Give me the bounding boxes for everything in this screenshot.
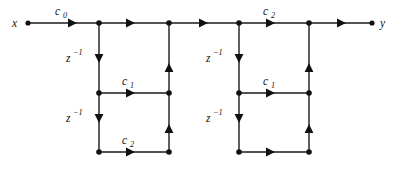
delay-label-s2-upper: z −1	[205, 48, 223, 64]
delay-label-s2-lower: z −1	[205, 108, 223, 124]
delay-s2-lower-superscript: −1	[213, 108, 223, 117]
delay-s1-upper-superscript: −1	[73, 48, 83, 57]
section1-left-delay-chain	[95, 23, 104, 152]
delay-s1-lower-base: z	[65, 112, 71, 124]
arrow-s1-top-forward	[126, 19, 135, 28]
top-signal-path	[28, 19, 372, 28]
output-terminal-label: y	[379, 17, 386, 30]
node-s1-mid-right	[166, 90, 172, 96]
delay-s2-upper-superscript: −1	[213, 48, 223, 57]
node-s2-mid-left	[236, 90, 242, 96]
arrow-s1-feedback-upper-up	[165, 63, 174, 72]
gain-label-s2-c2-top: c 2	[263, 5, 275, 20]
gain-label-c0: c 0	[55, 5, 67, 20]
gain-s1-c2-subscript: 2	[130, 140, 134, 149]
node-s1-bot-left	[96, 149, 102, 155]
node-s2-bot-left	[236, 149, 242, 155]
delay-label-s1-upper: z −1	[65, 48, 83, 64]
arrow-s1-delay-lower-down	[95, 114, 104, 123]
input-terminal-label: x	[11, 17, 18, 29]
section2-right-feedback	[305, 23, 314, 152]
gain-s2-c2-base: c	[263, 5, 268, 17]
arrow-s1-feedback-lower-up	[165, 124, 174, 133]
delay-s2-lower-base: z	[205, 112, 211, 124]
gain-s1-c2-base: c	[122, 134, 127, 146]
arrow-inter-section	[199, 19, 208, 28]
gain-label-s1-c1: c 1	[122, 75, 134, 90]
node-dots-group	[25, 20, 374, 155]
gain-label-s1-c2: c 2	[122, 134, 134, 149]
gain-s2-c1-base: c	[263, 75, 268, 87]
arrow-s2-feedback-upper-up	[305, 63, 314, 72]
node-s2-bot-right	[306, 149, 312, 155]
delay-s1-upper-base: z	[65, 52, 71, 64]
section2-bottom-branch	[239, 148, 309, 157]
section2-left-delay-chain	[235, 23, 244, 152]
flow-graph-canvas: x y c 0 c 1 c 2 c 2 c 1 z −	[0, 0, 399, 172]
node-s2-top-left	[236, 20, 242, 26]
gain-c0-base: c	[55, 5, 60, 17]
gain-s2-c2-subscript: 2	[271, 11, 275, 20]
node-s1-mid-left	[96, 90, 102, 96]
arrow-s2-delay-upper-down	[235, 54, 244, 63]
arrow-s1-delay-upper-down	[95, 54, 104, 63]
node-output	[369, 20, 374, 25]
node-s1-top-left	[96, 20, 102, 26]
gain-c0-subscript: 0	[63, 11, 67, 20]
arrow-s2-delay-lower-down	[235, 114, 244, 123]
node-s1-top-right	[166, 20, 172, 26]
delay-label-s1-lower: z −1	[65, 108, 83, 124]
delay-s1-lower-superscript: −1	[73, 108, 83, 117]
node-s2-top-right	[306, 20, 312, 26]
gain-s1-c1-subscript: 1	[130, 81, 134, 90]
arrow-c0-gain	[68, 19, 77, 28]
signal-flow-graph-figure: x y c 0 c 1 c 2 c 2 c 1 z −	[0, 0, 399, 172]
node-s2-mid-right	[306, 90, 312, 96]
gain-s2-c1-subscript: 1	[271, 81, 275, 90]
arrow-s2-bottom	[266, 148, 275, 157]
gain-s1-c1-base: c	[122, 75, 127, 87]
section1-right-feedback	[165, 23, 174, 152]
arrow-output	[337, 19, 346, 28]
gain-label-s2-c1: c 1	[263, 75, 275, 90]
node-input	[25, 20, 30, 25]
delay-s2-upper-base: z	[205, 52, 211, 64]
node-s1-bot-right	[166, 149, 172, 155]
arrow-s2-feedback-lower-up	[305, 124, 314, 133]
